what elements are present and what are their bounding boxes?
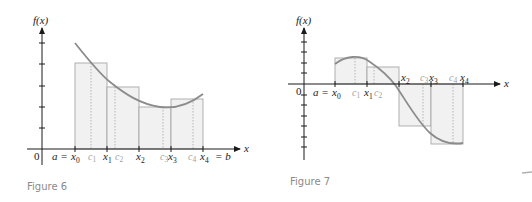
- c2-label: c2: [374, 87, 382, 100]
- y-axis-label: f(x): [33, 14, 49, 27]
- x1-label: x1: [363, 86, 373, 101]
- a-label: a =: [52, 150, 68, 162]
- edge-line: [522, 172, 532, 173]
- origin-label: 0: [34, 150, 40, 162]
- a-label: a =: [313, 86, 329, 98]
- figure-7: f(x) x 0 a = x0 c1 x1 c2 x2 c3 x3 c4 x4 …: [288, 14, 509, 187]
- y-axis-label: f(x): [296, 14, 312, 27]
- figure-7-caption: Figure 7: [290, 176, 330, 187]
- x0-label: x0: [70, 150, 80, 165]
- figure-6-caption: Figure 6: [27, 181, 67, 192]
- x-axis-label: x: [503, 77, 509, 89]
- x3-label: x3: [167, 150, 177, 165]
- x0-label: x0: [331, 86, 341, 101]
- x2-label: x2: [135, 150, 145, 165]
- rectangle-4: [431, 84, 463, 144]
- riemann-rectangles: [335, 58, 463, 144]
- c3-label: c3: [420, 72, 428, 85]
- x-axis-label: x: [243, 142, 249, 154]
- c2-label: c2: [115, 151, 123, 164]
- figure-6: f(x) x 0 a = x0 c1 x1 c2 x2 c3 x3 c4 x4 …: [27, 14, 249, 192]
- origin-label: 0: [296, 85, 302, 97]
- rectangle-2: [367, 67, 399, 84]
- riemann-sum-figures: f(x) x 0 a = x0 c1 x1 c2 x2 c3 x3 c4 x4 …: [0, 0, 532, 202]
- rectangle-2: [107, 87, 139, 149]
- x4-label: x4: [199, 150, 209, 165]
- c4-label: c4: [449, 72, 457, 85]
- c4-label: c4: [188, 151, 196, 164]
- rectangle-3: [139, 107, 171, 149]
- c1-label: c1: [88, 151, 96, 164]
- x1-label: x1: [102, 150, 112, 165]
- rectangle-1: [335, 58, 367, 84]
- rectangle-3: [399, 84, 431, 126]
- c1-label: c1: [352, 87, 360, 100]
- riemann-rectangles: [75, 63, 203, 149]
- b-label: = b: [215, 150, 231, 162]
